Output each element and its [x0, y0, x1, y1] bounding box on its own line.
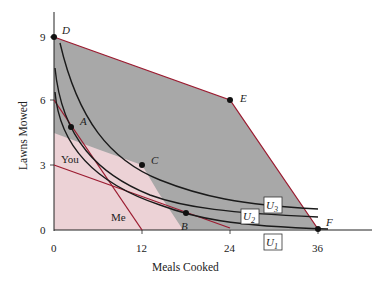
label-c: C: [151, 154, 159, 166]
x-tick-36: 36: [312, 242, 324, 254]
y-tick-3: 3: [40, 159, 46, 171]
x-axis-title: Meals Cooked: [152, 261, 219, 273]
y-tick-0: 0: [40, 224, 46, 236]
point-f: [315, 226, 321, 232]
point-b: [183, 210, 189, 216]
point-c: [139, 162, 145, 168]
label-e: E: [239, 92, 247, 104]
u2-label-box: U2: [241, 209, 259, 225]
point-d: [51, 34, 57, 40]
y-tick-9: 9: [40, 31, 46, 43]
label-me: Me: [111, 211, 126, 223]
y-tick-marks: [50, 37, 54, 165]
x-tick-0: 0: [51, 242, 57, 254]
x-tick-marks: [142, 230, 318, 234]
x-tick-12: 12: [136, 242, 147, 254]
u1-label-box: U1: [264, 234, 282, 251]
label-a: A: [79, 115, 87, 127]
label-b: B: [181, 220, 188, 232]
label-you: You: [61, 153, 79, 165]
y-axis-title: Lawns Mowed: [17, 101, 29, 170]
y-tick-6: 6: [40, 94, 46, 106]
u3-label-box: U3: [264, 197, 282, 214]
ppf-chart: D E F A C B You Me U3 U2 U1 9 6 3 0 0 12…: [0, 0, 391, 283]
label-d: D: [61, 24, 70, 36]
x-tick-24: 24: [224, 242, 236, 254]
label-f: F: [325, 216, 333, 228]
point-a: [68, 124, 74, 130]
point-e: [227, 97, 233, 103]
